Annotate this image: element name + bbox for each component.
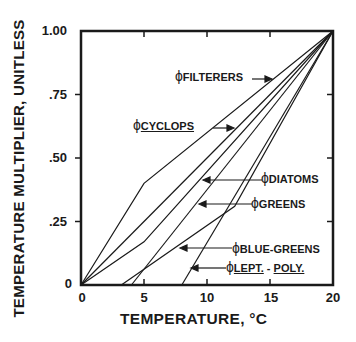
arrowhead-lept-poly-icon — [191, 265, 198, 271]
arrowhead-cyclops-icon — [227, 125, 234, 131]
y-tick-1.00: 1.00 — [27, 23, 67, 38]
phi-symbol: ϕ — [232, 240, 240, 256]
label-greens: ϕGREENS — [251, 195, 305, 211]
y-axis-label: TEMPERATURE MULTIPLIER, UNITLESS — [10, 4, 27, 334]
label-lept-poly: ϕLEPT. - POLY. — [226, 259, 304, 275]
label-text: FILTERERS — [183, 71, 243, 83]
label-blue-greens: ϕBLUE-GREENS — [232, 240, 320, 256]
x-tick-20: 20 — [318, 290, 348, 305]
arrowhead-diatoms-icon — [203, 177, 210, 183]
x-axis-label: TEMPERATURE, °C — [120, 310, 267, 328]
phi-symbol: ϕ — [251, 195, 259, 211]
x-tick-10: 10 — [192, 290, 222, 305]
x-tick-5: 5 — [129, 290, 159, 305]
label-text: BLUE-GREENS — [240, 243, 320, 255]
label-text: DIATOMS — [269, 173, 319, 185]
arrowhead-blue-greens-icon — [180, 245, 187, 251]
phi-symbol: ϕ — [226, 259, 234, 275]
y-tick-.75: .75 — [27, 87, 67, 102]
label-text-lept: LEPT. — [234, 262, 264, 274]
phi-symbol: ϕ — [175, 68, 183, 84]
y-tick-.25: .25 — [27, 214, 67, 229]
x-tick-0: 0 — [67, 290, 97, 305]
y-tick-0: 0 — [32, 276, 72, 291]
label-text-poly: POLY. — [274, 262, 305, 274]
phi-symbol: ϕ — [133, 117, 141, 133]
phi-symbol: ϕ — [261, 170, 269, 186]
x-tick-15: 15 — [256, 290, 286, 305]
label-dash: - — [264, 262, 274, 274]
arrowhead-greens-icon — [199, 201, 206, 207]
y-tick-.50: .50 — [27, 150, 67, 165]
label-text: GREENS — [259, 198, 305, 210]
label-cyclops: ϕCYCLOPS — [133, 117, 194, 133]
label-diatoms: ϕDIATOMS — [261, 170, 319, 186]
label-text: CYCLOPS — [141, 120, 194, 132]
label-filterers: ϕFILTERERS — [175, 68, 243, 84]
